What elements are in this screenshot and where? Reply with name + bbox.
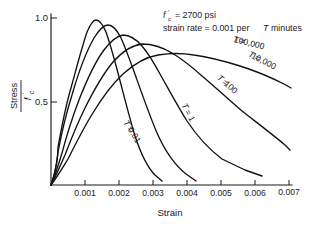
annotation-line-2: strain rate = 0.001 per T minutes bbox=[163, 23, 302, 33]
fc-symbol-prime: ′ bbox=[168, 8, 170, 15]
x-axis-title: Strain bbox=[157, 207, 182, 218]
xtick-label-0.005: 0.005 bbox=[210, 188, 232, 198]
y-axis-numerator: Stress bbox=[9, 83, 19, 109]
y-axis-denominator-subscript: c bbox=[28, 90, 35, 94]
curve-label-t-10000-value: 10,000 bbox=[250, 51, 278, 72]
y-axis-title: Stress f c ′ bbox=[9, 80, 35, 112]
curve-label-t-100000-value: 100,000 bbox=[233, 34, 266, 51]
xtick-label-0.007: 0.007 bbox=[278, 187, 300, 197]
strain-rate-t-var: T bbox=[263, 23, 269, 33]
annotation-block: f c ′ = 2700 psi strain rate = 0.001 per… bbox=[163, 8, 302, 34]
curve-label-t-0.01: T = 0.01 bbox=[121, 118, 143, 145]
strain-rate-text-b: minutes bbox=[271, 23, 302, 33]
y-axis-denominator-prime: ′ bbox=[21, 92, 28, 94]
strain-rate-text-a: strain rate = 0.001 per bbox=[163, 23, 249, 33]
curve-label-t-10000: T = 10,000 bbox=[247, 49, 278, 72]
ytick-label-1.0: 1.0 bbox=[35, 12, 48, 23]
curve-t-100 bbox=[51, 35, 262, 185]
curve-t-1 bbox=[51, 25, 196, 185]
xtick-label-0.006: 0.006 bbox=[244, 188, 266, 198]
xtick-label-0.001: 0.001 bbox=[74, 188, 96, 198]
xtick-label-0.002: 0.002 bbox=[108, 188, 130, 198]
curve-t-10000 bbox=[51, 44, 290, 185]
y-axis-denominator-base: f bbox=[23, 96, 33, 100]
ytick-label-0.5: 0.5 bbox=[35, 96, 48, 107]
xtick-label-0.003: 0.003 bbox=[142, 188, 164, 198]
fc-symbol-base: f bbox=[163, 10, 167, 20]
curve-label-t-100000: T = 100,000 bbox=[232, 34, 266, 52]
chart-figure: 1.0 0.5 0.001 0.002 0.003 0.004 0.005 0.… bbox=[0, 0, 327, 227]
fc-value: = 2700 psi bbox=[175, 10, 216, 20]
curve-label-t-100: T = 100 bbox=[215, 72, 240, 95]
xtick-label-0.004: 0.004 bbox=[176, 188, 198, 198]
curve-t-100000 bbox=[51, 54, 291, 186]
curve-label-t-0.01-value: 0.01 bbox=[126, 125, 143, 145]
y-axis-denominator: f c ′ bbox=[21, 90, 35, 100]
annotation-line-1: f c ′ = 2700 psi bbox=[163, 8, 216, 23]
stress-strain-plot: 1.0 0.5 0.001 0.002 0.003 0.004 0.005 0.… bbox=[0, 0, 327, 227]
fc-symbol-subscript: c bbox=[168, 15, 172, 22]
